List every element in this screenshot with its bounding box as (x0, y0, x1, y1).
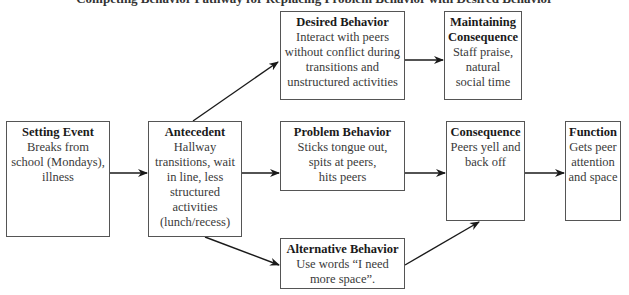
arrow-alternative-to-consequence (405, 222, 479, 265)
maintaining-consequence-box: Maintaining Consequence Staff praise, na… (444, 11, 522, 100)
desired-behavior-box: Desired Behavior Interact with peers wit… (280, 11, 405, 100)
maintaining-consequence-heading: Maintaining Consequence (445, 15, 521, 45)
desired-behavior-heading: Desired Behavior (281, 15, 404, 30)
problem-behavior-heading: Problem Behavior (281, 125, 404, 140)
alternative-behavior-body: Use words “I need more space”. (281, 257, 404, 287)
antecedent-box: Antecedent Hallway transitions, wait in … (148, 121, 242, 237)
consequence-body: Peers yell and back off (447, 140, 524, 170)
problem-behavior-box: Problem Behavior Sticks tongue out, spit… (280, 121, 405, 191)
setting-event-heading: Setting Event (7, 125, 109, 140)
consequence-heading: Consequence (447, 125, 524, 140)
maintaining-consequence-body: Staff praise, natural social time (445, 45, 521, 90)
antecedent-heading: Antecedent (149, 125, 241, 140)
setting-event-body: Breaks from school (Mondays), illness (7, 140, 109, 185)
function-body: Gets peer attention and space (566, 140, 620, 185)
alternative-behavior-heading: Alternative Behavior (281, 242, 404, 257)
arrow-antecedent-to-alternative (205, 237, 279, 265)
problem-behavior-body: Sticks tongue out, spits at peers, hits … (281, 140, 404, 185)
function-heading: Function (566, 125, 620, 140)
alternative-behavior-box: Alternative Behavior Use words “I need m… (280, 238, 405, 289)
consequence-box: Consequence Peers yell and back off (446, 121, 525, 221)
function-box: Function Gets peer attention and space (565, 121, 621, 221)
arrow-antecedent-to-desired (193, 62, 278, 121)
setting-event-box: Setting Event Breaks from school (Monday… (6, 121, 110, 237)
antecedent-body: Hallway transitions, wait in line, less … (149, 140, 241, 230)
desired-behavior-body: Interact with peers without conflict dur… (281, 30, 404, 90)
